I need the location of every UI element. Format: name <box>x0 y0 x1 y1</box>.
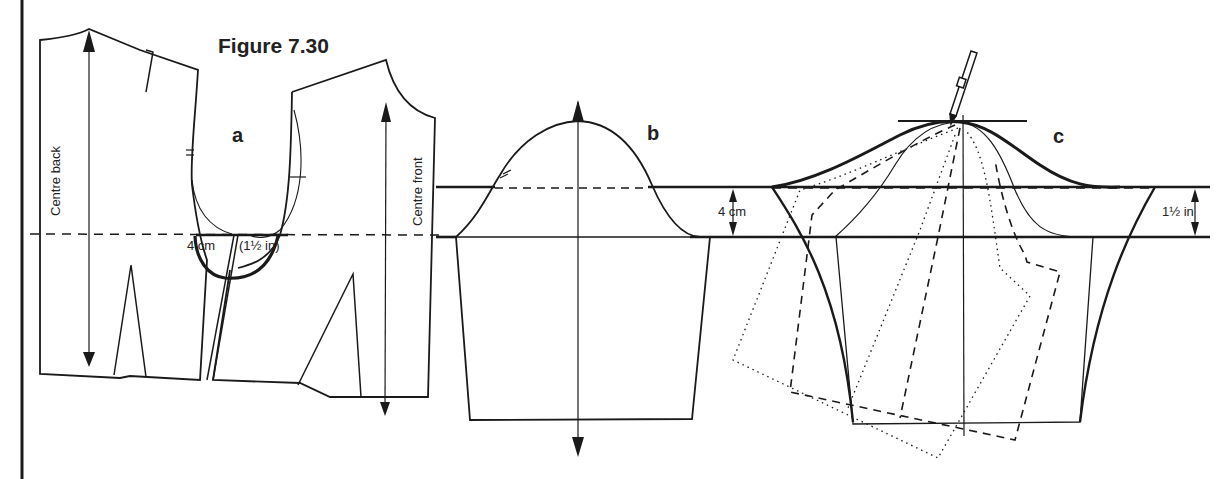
pencil-icon <box>950 51 977 124</box>
back-bodice <box>40 29 207 380</box>
figure-canvas: Figure 7.30 a b c Centre back Centre fro… <box>0 0 1227 479</box>
armhole-measure-cm: 4 cm <box>187 239 215 252</box>
sleeve-b-measure: 4 cm <box>718 205 746 218</box>
centre-front-label: Centre front <box>411 157 424 226</box>
panel-label-b: b <box>647 123 659 143</box>
sleeve-c <box>710 115 1155 458</box>
sleeve-c-measure: 1½ in <box>1162 205 1194 218</box>
figure-title: Figure 7.30 <box>218 35 329 56</box>
panel-label-c: c <box>1053 126 1064 146</box>
pattern-diagram <box>0 0 1227 479</box>
armhole-measure-in: (1½ in) <box>239 239 279 252</box>
panel-label-a: a <box>232 125 243 145</box>
centre-back-label: Centre back <box>49 146 62 216</box>
